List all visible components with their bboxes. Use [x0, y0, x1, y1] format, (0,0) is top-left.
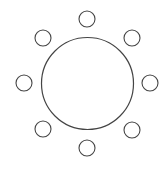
- satellite-circle-bottom-right: [124, 122, 140, 138]
- satellite-circle-bottom-left: [35, 121, 51, 137]
- circle-diagram: [0, 0, 167, 169]
- satellite-circle-top-left: [35, 30, 51, 46]
- satellite-circle-bottom: [79, 140, 95, 156]
- satellite-circle-top-right: [124, 30, 140, 46]
- center-circle: [42, 38, 134, 130]
- satellite-circle-left: [16, 75, 32, 91]
- satellite-circle-top: [79, 11, 95, 27]
- satellite-circle-right: [142, 75, 158, 91]
